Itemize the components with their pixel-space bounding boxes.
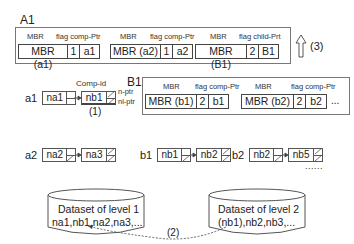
entry-ptr: a2 — [173, 45, 192, 58]
dataset-level2-title: Dataset of level 2 — [218, 203, 299, 215]
a1-header-mbr: MBR — [27, 32, 44, 41]
nl-ptr-label: nl-ptr — [118, 97, 135, 106]
A1-entry-B1[interactable]: MBR (B1) 2 B1 — [195, 44, 279, 59]
entry-ptr: b1 — [209, 95, 228, 108]
step-3-label: (3) — [310, 40, 323, 52]
entry-flag: 2 — [247, 45, 259, 58]
a2-header-rest: flag comp-Ptr — [150, 32, 195, 41]
more-entries-ellipsis: ... — [331, 95, 339, 106]
list-node-nb2-b2[interactable]: nb2 — [249, 148, 283, 162]
node-name: nb2 — [197, 149, 222, 161]
node-label-A1: A1 — [20, 13, 35, 27]
entry-ptr: b2 — [306, 95, 326, 108]
entry-ptr: B1 — [259, 45, 278, 58]
b1-header-rest: flag comp-Ptr — [195, 82, 240, 91]
node-pointer-cell — [314, 149, 322, 161]
entry-flag: 1 — [161, 45, 173, 58]
dataset-level2-items: (nb1),nb2,nb3,... — [218, 216, 295, 228]
list-label-b2: b2 — [232, 149, 244, 161]
node-pointer-cell — [67, 92, 75, 104]
list-node-na3[interactable]: na3 — [81, 148, 116, 162]
b2-header-mbr: MBR — [255, 82, 272, 91]
list-node-nb2-b1[interactable]: nb2 — [196, 148, 231, 162]
dataset-level1-title: Dataset of level 1 — [58, 203, 139, 215]
b1-header-mbr: MBR — [163, 82, 180, 91]
up-arrow-icon — [296, 35, 306, 57]
list-label-b1: b1 — [140, 149, 152, 161]
a1-header-rest: flag comp-Ptr — [56, 32, 101, 41]
a2-header-mbr: MBR — [120, 32, 137, 41]
A1-entry-a1[interactable]: MBR (a1) 1 a1 — [18, 44, 100, 59]
node-name: na2 — [43, 149, 67, 161]
list-label-a1: a1 — [25, 92, 37, 104]
node-pointer-cell — [107, 149, 115, 161]
node-name: nb5 — [289, 149, 314, 161]
node-name: nb2 — [250, 149, 274, 161]
entry-mbr: MBR (b2) — [242, 95, 294, 108]
node-name: na3 — [82, 149, 107, 161]
node-pointer-cell — [182, 149, 190, 161]
list-node-na2[interactable]: na2 — [42, 148, 76, 162]
node-name: nb1 — [82, 92, 107, 103]
step-1-label: (1) — [89, 106, 101, 117]
entry-flag: 2 — [197, 95, 209, 108]
entry-mbr: MBR (a2) — [111, 45, 161, 58]
list-node-nb5[interactable]: nb5 — [288, 148, 323, 162]
node-pointer-cell — [222, 149, 230, 161]
entry-mbr: MBR (b1) — [146, 95, 197, 108]
entry-mbr: MBR (B1) — [196, 45, 247, 58]
B1-entry-b2[interactable]: MBR (b2) 2 b2 — [241, 94, 327, 109]
node-pointer-cell — [67, 149, 75, 161]
comp-id-label: Comp-id — [76, 79, 106, 88]
dataset-level1-items: na1,nb1,na2,na3,... — [52, 216, 143, 228]
list-node-nb1[interactable]: nb1 — [81, 91, 116, 105]
n-ptr-label: n-ptr — [118, 87, 133, 96]
step-2-label: (2) — [167, 227, 179, 238]
B1-header-mbr: MBR — [210, 32, 227, 41]
more-lists-dots: ...... — [305, 161, 323, 171]
A1-entry-a2[interactable]: MBR (a2) 1 a2 — [110, 44, 193, 59]
list-label-a2: a2 — [25, 149, 37, 161]
entry-flag: 1 — [68, 45, 80, 58]
entry-mbr: MBR (a1) — [19, 45, 68, 58]
B1-entry-b1[interactable]: MBR (b1) 2 b1 — [145, 94, 229, 109]
entry-flag: 2 — [294, 95, 306, 108]
node-pointer-cell — [107, 92, 115, 103]
list-node-na1[interactable]: na1 — [42, 91, 76, 105]
node-pointer-cell — [274, 149, 282, 161]
b2-header-rest: flag comp-Ptr — [291, 82, 336, 91]
list-node-nb1-b1[interactable]: nb1 — [157, 148, 191, 162]
entry-ptr: a1 — [80, 45, 99, 58]
node-name: na1 — [43, 92, 67, 104]
B1-header-rest: flag child-Prt — [239, 32, 281, 41]
node-name: nb1 — [158, 149, 182, 161]
